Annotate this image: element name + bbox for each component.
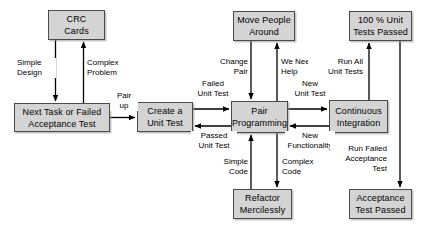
- edge-label-change-pair: Change Pair: [205, 57, 249, 77]
- node-continuous-integration[interactable]: Continuous Integration: [329, 100, 388, 133]
- edge-label-complex-problem: Complex Problem: [86, 58, 132, 78]
- edge-label-simple-design: Simple Design: [16, 58, 56, 78]
- edge-label-run-failed-acceptance-test: Run Failed Acceptance Test: [330, 144, 388, 174]
- edge-label-complex-code: Complex Code: [281, 157, 329, 177]
- edge-label-passed-unit-test: Passed Unit Test: [191, 131, 237, 151]
- edge-label-run-all-unit-tests: Run All Unit Tests: [308, 57, 364, 77]
- node-move-people-around[interactable]: Move People Around: [233, 11, 295, 41]
- node-100-percent-unit-tests-passed[interactable]: 100 % Unit Tests Passed: [349, 11, 412, 41]
- node-pair-programming[interactable]: Pair Programming: [231, 101, 288, 133]
- xp-flow-diagram: CRC Cards Next Task or Failed Acceptance…: [0, 0, 421, 230]
- node-next-task-or-failed-acceptance-test[interactable]: Next Task or Failed Acceptance Test: [14, 103, 110, 132]
- edge-label-failed-unit-test: Failed Unit Test: [191, 79, 235, 99]
- node-crc-cards[interactable]: CRC Cards: [48, 10, 105, 40]
- edge-label-simple-code: Simple Code: [206, 157, 249, 177]
- edge-label-pair-up: Pair up: [110, 91, 138, 111]
- edge-label-new-functionality: New Functionality: [285, 131, 335, 151]
- edge-label-new-unit-test: New Unit Test: [287, 79, 333, 99]
- node-create-a-unit-test[interactable]: Create a Unit Test: [137, 102, 193, 132]
- node-acceptance-test-passed[interactable]: Acceptance Test Passed: [349, 189, 412, 219]
- node-refactor-mercilessly[interactable]: Refactor Mercilessly: [233, 189, 292, 219]
